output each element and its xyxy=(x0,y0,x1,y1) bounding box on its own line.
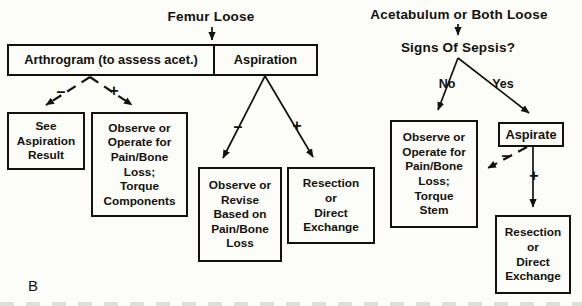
resection-direct-exchange-text-left: Resection or Direct Exchange xyxy=(303,176,359,235)
observe-torque-components-box: Observe or Operate for Pain/Bone Loss; T… xyxy=(91,112,188,217)
flowchart-figure: Femur Loose Arthrogram (to assess acet.)… xyxy=(0,0,582,306)
resection-direct-exchange-text-right: Resection or Direct Exchange xyxy=(505,225,561,284)
arthrogram-cell: Arthrogram (to assess acet.) xyxy=(9,46,213,74)
arrow-arthrogram-negative xyxy=(46,77,90,105)
aspirate-box: Aspirate xyxy=(498,122,564,147)
resection-direct-exchange-box-right: Resection or Direct Exchange xyxy=(495,215,571,294)
observe-revise-text: Observe or Revise Based on Pain/Bone Los… xyxy=(209,178,271,251)
aspiration-cell: Aspiration xyxy=(213,46,316,74)
aspirate-text: Aspirate xyxy=(505,127,556,143)
aspiration-minus-sign: – xyxy=(234,119,243,135)
sepsis-yes-label: Yes xyxy=(492,78,514,91)
cropped-caption-remnant xyxy=(0,302,582,306)
arthrogram-minus-sign: – xyxy=(57,84,66,100)
see-aspiration-result-text: See Aspiration Result xyxy=(17,119,75,163)
sepsis-question: Signs Of Sepsis? xyxy=(401,40,515,55)
observe-torque-stem-text: Observe or Operate for Pain/Bone Loss; T… xyxy=(402,130,466,218)
acetabulum-loose-title: Acetabulum or Both Loose xyxy=(370,7,547,22)
aspirate-minus-sign: – xyxy=(502,148,511,164)
arthrogram-plus-sign: + xyxy=(109,83,118,99)
resection-direct-exchange-box-left: Resection or Direct Exchange xyxy=(287,167,375,244)
aspiration-plus-sign: + xyxy=(292,118,301,134)
arrow-aspiration-positive xyxy=(265,76,313,157)
sepsis-no-label: No xyxy=(439,78,456,91)
aspirate-plus-sign: + xyxy=(529,168,538,184)
arrow-aspiration-negative xyxy=(223,76,265,158)
observe-torque-stem-box: Observe or Operate for Pain/Bone Loss; T… xyxy=(390,120,478,228)
see-aspiration-result-box: See Aspiration Result xyxy=(7,112,85,170)
femur-header-box: Arthrogram (to assess acet.) Aspiration xyxy=(7,44,318,76)
observe-torque-components-text: Observe or Operate for Pain/Bone Loss; T… xyxy=(103,121,175,209)
figure-label-b: B xyxy=(28,277,38,294)
femur-loose-title: Femur Loose xyxy=(168,9,255,24)
observe-revise-box: Observe or Revise Based on Pain/Bone Los… xyxy=(198,167,282,262)
